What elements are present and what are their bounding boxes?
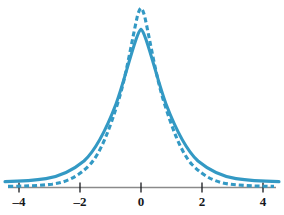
bell-curve-plot	[0, 0, 284, 215]
x-tick-label-minus4: –4	[13, 195, 26, 208]
x-tick-label-4: 4	[260, 195, 267, 208]
x-tick-label-zero: 0	[138, 195, 145, 208]
narrow-normal-curve-dashed	[8, 8, 274, 186]
x-tick-label-minus2: –2	[74, 195, 87, 208]
wide-normal-curve-solid	[5, 29, 279, 181]
bell-curve-figure: –4 –2 0 2 4	[0, 0, 284, 215]
x-tick-label-2: 2	[199, 195, 206, 208]
